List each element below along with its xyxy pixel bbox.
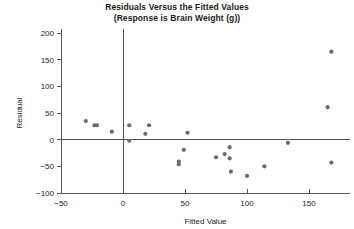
- y-tick-label: 150: [41, 56, 55, 65]
- y-axis-title: Residual: [15, 97, 24, 128]
- data-point: [228, 156, 232, 160]
- data-point: [286, 141, 290, 145]
- data-point: [262, 164, 266, 168]
- data-point: [177, 162, 181, 166]
- axis-labels-layer: −100−50050100150200−50050100150Fitted Va…: [15, 29, 316, 226]
- scatter-plot-canvas: −100−50050100150200−50050100150Fitted Va…: [0, 0, 354, 229]
- data-point: [329, 50, 333, 54]
- x-tick-label: 0: [121, 199, 126, 208]
- residual-plot-figure: Residuals Versus the Fitted Values (Resp…: [0, 0, 354, 229]
- axes-layer: [61, 29, 350, 193]
- data-point: [110, 130, 114, 134]
- y-tick-label: 0: [50, 136, 55, 145]
- data-point: [185, 131, 189, 135]
- data-point: [214, 155, 218, 159]
- data-point: [84, 119, 88, 123]
- data-point: [245, 174, 249, 178]
- y-tick-label: 200: [41, 29, 55, 38]
- data-point: [228, 145, 232, 149]
- x-tick-label: 150: [302, 199, 316, 208]
- data-point: [127, 123, 131, 127]
- data-point: [182, 148, 186, 152]
- y-tick-label: −50: [40, 162, 54, 171]
- y-tick-label: −100: [36, 189, 55, 198]
- x-tick-label: −50: [54, 199, 68, 208]
- data-point: [95, 123, 99, 127]
- y-tick-label: 50: [45, 109, 54, 118]
- data-point: [326, 105, 330, 109]
- data-point: [329, 161, 333, 165]
- x-axis-title: Fitted Value: [184, 217, 227, 226]
- ticks-layer: [57, 33, 309, 193]
- x-tick-label: 50: [181, 199, 190, 208]
- data-point: [127, 139, 131, 143]
- data-points-layer: [84, 50, 334, 178]
- data-point: [223, 152, 227, 156]
- data-point: [229, 170, 233, 174]
- zero-reference-line: [61, 29, 350, 193]
- y-tick-label: 100: [41, 82, 55, 91]
- data-point: [147, 123, 151, 127]
- data-point: [143, 132, 147, 136]
- x-tick-label: 100: [240, 199, 254, 208]
